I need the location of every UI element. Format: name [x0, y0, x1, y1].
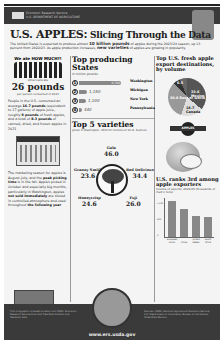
variety-fuji: Fuji26.0 — [126, 196, 141, 207]
state-row: 16,700Washington — [72, 78, 154, 87]
intro-text: The United States is expected to produce… — [10, 42, 210, 50]
amount-value: 26 pounds — [6, 82, 70, 92]
exporters-bar-chart: 1,200 600 0 European Union China United … — [164, 198, 214, 238]
bar-eu — [168, 201, 176, 237]
apple-illustration-icon — [166, 142, 200, 172]
top-states-subtitle: In million pounds — [72, 72, 154, 76]
exporters-rank-subtitle: Volume of exports, 2022/23 (thousands of… — [156, 188, 220, 195]
state-row: 21,180Michigan — [72, 87, 154, 96]
page-title: U.S. APPLES: Slicing Through the Data — [10, 28, 211, 41]
variety-red-delicious: Red Delicious34.4 — [126, 168, 154, 179]
apples-badge-icon: APPLES — [170, 122, 206, 136]
footer-url-link[interactable]: www.ers.usda.gov — [4, 332, 220, 337]
bar-china — [180, 209, 188, 237]
consumption-heading: We ate HOW MUCH?! — [6, 56, 70, 61]
header-banner: Economic Research Service U.S. DEPARTMEN… — [4, 7, 220, 24]
consumption-section: We ate HOW MUCH?! Americans ate 26 pound… — [6, 56, 70, 208]
consumption-paragraph: People in the U.S. consumed an average 1… — [6, 99, 70, 131]
column-divider — [154, 56, 155, 302]
amount-note: per person consumed in 2021 — [6, 92, 70, 96]
infographic-page: Economic Research Service U.S. DEPARTMEN… — [4, 4, 220, 340]
variety-gala: Gala46.0 — [104, 146, 119, 157]
states-bar-list: 16,700Washington 21,180Michigan 31,100Ne… — [72, 78, 154, 114]
varieties-title: Top 5 varieties — [72, 121, 154, 129]
top-states-title: Top producing States — [72, 56, 154, 72]
footer-right-text: Sources: USDA, National Agricultural Sta… — [144, 310, 214, 319]
variety-honeycrisp: Honeycrisp24.6 — [78, 196, 101, 207]
farm-scene-icon — [92, 288, 132, 328]
state-row: 31,100New York — [72, 96, 154, 105]
footer-left-text: This infographic is based on data from U… — [10, 310, 80, 319]
apple-tree-icon — [96, 164, 128, 196]
export-pie-chart: 33.6 Mexico 18.7 Canada 30.8 Rest of wor… — [168, 78, 206, 116]
usda-logo-icon — [12, 12, 24, 19]
calendar-icon — [16, 136, 60, 166]
top-rule — [4, 4, 220, 6]
exports-title: Top U.S. fresh apple export destinations… — [156, 56, 220, 73]
agency-name: Economic Research Service U.S. DEPARTMEN… — [26, 12, 86, 19]
varieties-subtitle: grown in Washington, 2022/23 (millions o… — [72, 129, 154, 132]
column-divider — [70, 56, 71, 302]
exports-section: Top U.S. fresh apple export destinations… — [156, 56, 220, 238]
state-row: 4440Pennsylvania — [72, 105, 154, 114]
top-states-section: Top producing States In million pounds 1… — [72, 56, 154, 134]
bar-south-africa — [204, 217, 212, 237]
bar-us — [192, 216, 200, 237]
people-silhouettes-icon — [14, 62, 62, 78]
season-paragraph: The marketing season for apples is Augus… — [6, 171, 70, 208]
